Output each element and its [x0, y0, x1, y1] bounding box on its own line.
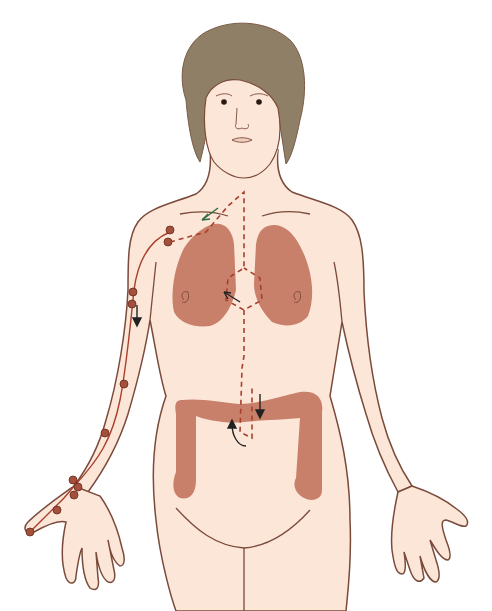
face — [204, 80, 280, 178]
body-silhouette — [25, 150, 467, 611]
head — [182, 23, 304, 178]
anatomy-figure — [0, 0, 492, 611]
